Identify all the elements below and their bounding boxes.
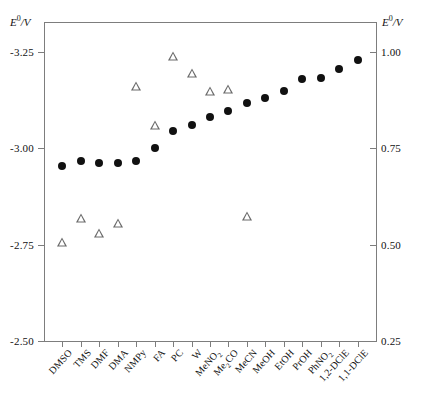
data-point-open-triangle	[168, 51, 178, 60]
x-tick	[321, 341, 322, 347]
data-point-filled-circle	[188, 121, 196, 129]
x-tick	[210, 341, 211, 347]
y-tick-right	[370, 52, 377, 53]
y-tick-label-left: -3.00	[10, 142, 34, 154]
y-tick-right	[370, 341, 377, 342]
x-tick-label: FA	[150, 347, 166, 363]
scatter-chart: E0/V E0/V -3.25-3.00-2.75-2.50 1.000.750…	[0, 0, 423, 411]
x-tick	[358, 341, 359, 347]
data-point-filled-circle	[224, 107, 232, 115]
data-point-open-triangle	[205, 87, 215, 96]
y-tick-right	[370, 245, 377, 246]
data-point-filled-circle	[298, 75, 306, 83]
data-point-filled-circle	[243, 99, 251, 107]
y-tick-label-right: 0.75	[381, 142, 401, 154]
data-point-open-triangle	[131, 81, 141, 90]
y-tick-right	[370, 148, 377, 149]
x-tick	[284, 341, 285, 347]
x-tick	[339, 341, 340, 347]
x-tick-label: EtOH	[272, 347, 296, 372]
x-tick	[155, 341, 156, 347]
x-tick	[99, 341, 100, 347]
data-point-filled-circle	[335, 65, 343, 73]
y-tick-label-left: -2.75	[10, 239, 34, 251]
data-point-filled-circle	[206, 113, 214, 121]
axis-line-top	[44, 22, 377, 23]
x-tick	[118, 341, 119, 347]
y-tick-label-right: 1.00	[381, 46, 401, 58]
data-point-open-triangle	[187, 69, 197, 78]
y-tick-left	[38, 341, 45, 342]
data-point-open-triangle	[113, 219, 123, 228]
y-tick-label-left: -2.50	[10, 335, 34, 347]
data-point-open-triangle	[242, 211, 252, 220]
x-tick	[247, 341, 248, 347]
data-point-open-triangle	[223, 84, 233, 93]
axis-line-left	[44, 22, 45, 341]
data-point-filled-circle	[114, 159, 122, 167]
x-tick-label: PC	[169, 347, 185, 364]
x-tick-label: TMS	[71, 347, 93, 370]
x-tick	[265, 341, 266, 347]
x-tick	[302, 341, 303, 347]
x-tick	[136, 341, 137, 347]
y-tick-left	[38, 245, 45, 246]
data-point-filled-circle	[261, 94, 269, 102]
y-axis-title-left: E0/V	[10, 14, 31, 28]
y-tick-label-right: 0.25	[381, 335, 401, 347]
y-tick-label-right: 0.50	[381, 239, 401, 251]
data-point-filled-circle	[354, 56, 362, 64]
data-point-filled-circle	[151, 144, 159, 152]
x-tick	[173, 341, 174, 347]
data-point-filled-circle	[132, 157, 140, 165]
y-axis-title-right: E0/V	[382, 14, 403, 28]
data-point-filled-circle	[95, 159, 103, 167]
x-tick	[81, 341, 82, 347]
data-point-open-triangle	[76, 214, 86, 223]
data-point-open-triangle	[150, 121, 160, 130]
data-point-open-triangle	[57, 237, 67, 246]
data-point-filled-circle	[77, 157, 85, 165]
x-tick	[228, 341, 229, 347]
axis-line-right	[376, 22, 377, 341]
data-point-open-triangle	[94, 229, 104, 238]
y-tick-label-left: -3.25	[10, 46, 34, 58]
y-tick-left	[38, 148, 45, 149]
y-tick-left	[38, 52, 45, 53]
data-point-filled-circle	[317, 74, 325, 82]
x-tick	[62, 341, 63, 347]
data-point-filled-circle	[169, 127, 177, 135]
data-point-filled-circle	[280, 87, 288, 95]
data-point-filled-circle	[58, 162, 66, 170]
x-tick	[192, 341, 193, 347]
